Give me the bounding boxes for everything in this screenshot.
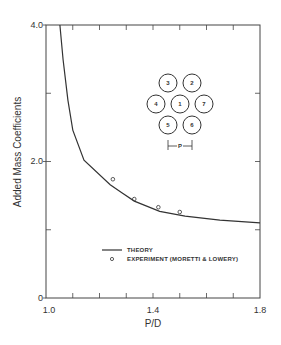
experiment-point <box>157 205 161 209</box>
rod-label: 7 <box>202 101 206 107</box>
rod-label: 6 <box>190 122 194 128</box>
y-tick-label-0: 0 <box>38 293 43 303</box>
y-tick-label-4: 4.0 <box>30 20 43 30</box>
chart: 4.0 2.0 0 1.0 1.4 1.8 P/D Added Mass Coe… <box>0 0 281 345</box>
y-axis-label: Added Mass Coefficients <box>12 97 23 207</box>
legend-theory-label: THEORY <box>127 247 153 253</box>
pitch-label: P <box>178 143 182 149</box>
x-axis-label: P/D <box>145 318 162 329</box>
rod-cluster-inset: 3241756 <box>147 74 213 134</box>
rod-label: 5 <box>166 122 170 128</box>
rod-label: 2 <box>190 80 194 86</box>
experiment-point <box>132 197 136 201</box>
experiment-point <box>111 177 115 181</box>
y-tick-label-2: 2.0 <box>30 156 43 166</box>
x-tick-label-1-4: 1.4 <box>147 305 160 315</box>
x-tick-label-1-8: 1.8 <box>254 305 267 315</box>
theory-curve <box>60 25 260 223</box>
legend-experiment-label: EXPERIMENT (MORETTI & LOWERY) <box>127 256 238 262</box>
x-tick-label-1-0: 1.0 <box>43 305 56 315</box>
legend-circle-marker-icon <box>110 257 113 260</box>
rod-label: 3 <box>166 80 170 86</box>
rod-label: 1 <box>178 101 182 107</box>
experiment-markers <box>111 177 181 213</box>
legend: THEORY EXPERIMENT (MORETTI & LOWERY) <box>102 247 238 262</box>
experiment-point <box>178 210 182 214</box>
rod-label: 4 <box>154 101 158 107</box>
